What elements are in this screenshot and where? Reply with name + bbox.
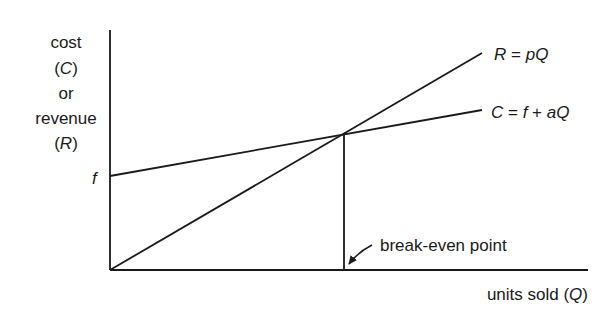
cost-equation-label: C = f + aQ	[491, 103, 569, 122]
break-even-arrow-icon	[349, 245, 372, 264]
svg-text:cost: cost	[50, 33, 81, 52]
svg-text:(R): (R)	[54, 134, 78, 153]
svg-text:(C): (C)	[54, 59, 78, 78]
break-even-label: break-even point	[380, 236, 507, 255]
break-even-diagram: cost (C) or revenue (R) f R = pQ C = f +…	[0, 0, 613, 321]
y-axis-label: cost (C) or revenue (R)	[35, 33, 96, 153]
svg-text:or: or	[58, 84, 73, 103]
revenue-equation-label: R = pQ	[494, 45, 548, 64]
svg-text:revenue: revenue	[35, 109, 96, 128]
fixed-cost-label: f	[92, 169, 99, 188]
cost-line	[110, 110, 482, 176]
x-axis-label: units sold (Q)	[487, 285, 588, 304]
